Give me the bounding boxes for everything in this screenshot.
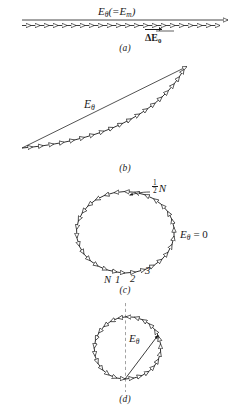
- panel-c-resultant-label: Eθ= 0: [180, 228, 208, 242]
- panel-c-tick-label-3: 3: [145, 265, 150, 276]
- panel-b: [22, 67, 187, 149]
- panel-b-resultant-arrow: [22, 67, 187, 149]
- panel-c-tick-label-2: 2: [130, 273, 135, 284]
- panel-b-caption: (b): [95, 163, 155, 173]
- panel-d-resultant-label: Eθ: [129, 332, 139, 346]
- panel-d-phasor-circle: [94, 317, 160, 379]
- panel-d-caption: (d): [95, 394, 155, 404]
- panel-d: [94, 303, 160, 392]
- panel-c-phasor-circle: [77, 192, 174, 273]
- panel-c-tick-label-N: N: [104, 274, 111, 285]
- panel-c: [77, 192, 174, 273]
- panel-c-tick-label-1: 1: [115, 274, 120, 285]
- panel-a-resultant-label: Eθ(=Em): [98, 5, 135, 19]
- panel-a-caption: (a): [95, 43, 155, 53]
- panel-b-resultant-label: Eθ: [84, 98, 95, 112]
- panel-c-caption: (c): [95, 285, 155, 295]
- phasor-figure: [0, 0, 250, 414]
- panel-c-half-n-label: 12N: [152, 179, 166, 195]
- panel-a: [22, 20, 228, 31]
